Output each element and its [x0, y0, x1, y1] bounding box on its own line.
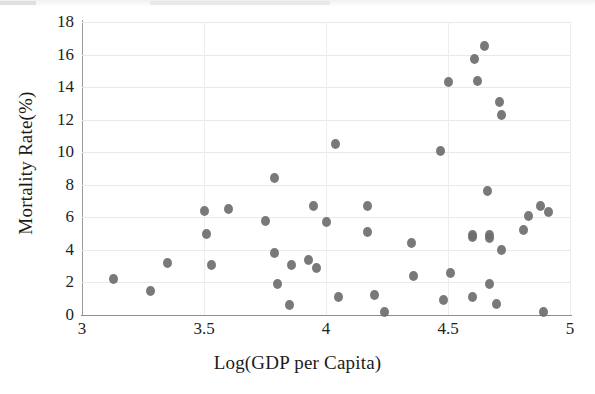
y-tick-label: 18: [0, 13, 74, 30]
data-point: [224, 204, 233, 214]
x-axis-title: Log(GDP per Capita): [0, 352, 595, 374]
data-point: [261, 216, 270, 226]
data-point: [370, 290, 379, 300]
gridline-vertical: [326, 22, 327, 315]
data-point: [380, 307, 389, 317]
y-tick-label: 14: [0, 78, 74, 95]
data-point: [207, 260, 216, 270]
scan-artifact-mark: [0, 1, 36, 5]
data-point: [480, 41, 489, 51]
data-point: [468, 292, 477, 302]
x-tick-label: 3.5: [174, 320, 234, 338]
data-point: [539, 307, 548, 317]
y-tick-label: 16: [0, 46, 74, 63]
data-point: [287, 260, 296, 270]
data-point: [146, 286, 155, 296]
data-point: [483, 186, 492, 196]
scan-artifact-mark: [150, 1, 330, 5]
data-point: [468, 232, 477, 242]
y-tick-label: 10: [0, 143, 74, 160]
x-tick-label: 4: [296, 320, 356, 338]
data-point: [363, 201, 372, 211]
data-point: [331, 139, 340, 149]
data-point: [200, 206, 209, 216]
data-point: [409, 271, 418, 281]
data-point: [439, 295, 448, 305]
data-point: [524, 211, 533, 221]
data-point: [407, 238, 416, 248]
data-point: [273, 279, 282, 289]
x-axis-line: [81, 315, 572, 316]
data-point: [519, 225, 528, 235]
plot-area: [82, 22, 570, 315]
data-point: [322, 217, 331, 227]
y-tick-label: 4: [0, 241, 74, 258]
y-tick-label: 6: [0, 208, 74, 225]
scatter-chart: 024681012141618 33.544.55 Log(GDP per Ca…: [0, 0, 595, 394]
data-point: [304, 255, 313, 265]
data-point: [312, 263, 321, 273]
data-point: [485, 279, 494, 289]
data-point: [473, 76, 482, 86]
data-point: [492, 299, 501, 309]
data-point: [334, 292, 343, 302]
y-tick-label: 8: [0, 176, 74, 193]
data-point: [495, 97, 504, 107]
y-tick-label: 2: [0, 273, 74, 290]
data-point: [202, 229, 211, 239]
data-point: [444, 77, 453, 87]
data-point: [470, 54, 479, 64]
data-point: [270, 173, 279, 183]
gridline-vertical: [570, 22, 571, 315]
data-point: [363, 227, 372, 237]
y-axis-title: Mortality Rate(%): [15, 63, 37, 263]
data-point: [163, 258, 172, 268]
data-point: [544, 207, 553, 217]
y-tick-label: 12: [0, 111, 74, 128]
data-point: [497, 110, 506, 120]
data-point: [436, 146, 445, 156]
data-point: [446, 268, 455, 278]
data-point: [497, 245, 506, 255]
data-point: [309, 201, 318, 211]
data-point: [270, 248, 279, 258]
gridline-vertical: [204, 22, 205, 315]
x-tick-label: 5: [540, 320, 595, 338]
x-tick-label: 3: [52, 320, 112, 338]
data-point: [285, 300, 294, 310]
x-tick-label: 4.5: [418, 320, 478, 338]
data-point: [485, 233, 494, 243]
